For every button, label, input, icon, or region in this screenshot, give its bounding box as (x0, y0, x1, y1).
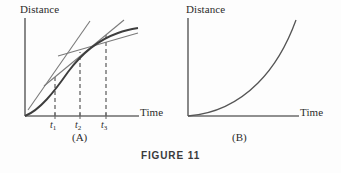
panel-b: Distance Time (B) (170, 0, 341, 150)
tick-label-sub-t1: 1 (53, 124, 57, 132)
panel-a-distance-curve (25, 28, 138, 116)
panel-a-caption: (A) (72, 131, 87, 143)
panel-a-tick-label-t1: t1 (50, 119, 56, 130)
panel-a-tangent-line-t1 (28, 21, 90, 110)
panel-a: Distance Time t1 (0, 0, 170, 150)
panel-a-tick-label-t2: t2 (75, 119, 81, 130)
panel-a-plot (0, 0, 170, 150)
panel-b-distance-curve (188, 20, 296, 116)
panel-b-plot (170, 0, 341, 150)
panel-b-y-axis-label: Distance (186, 3, 225, 15)
panel-b-x-axis-label: Time (300, 106, 323, 118)
panel-a-x-axis-label: Time (140, 106, 163, 118)
figure-caption: FIGURE 11 (0, 150, 341, 161)
tick-label-sub-t3: 3 (104, 124, 108, 132)
panel-b-caption: (B) (232, 131, 247, 143)
figure-11: Distance Time t1 (0, 0, 341, 173)
panel-a-tangent-line-t3 (58, 33, 138, 56)
panel-a-tick-label-t3: t3 (101, 119, 107, 130)
panel-a-y-axis-label: Distance (20, 3, 59, 15)
